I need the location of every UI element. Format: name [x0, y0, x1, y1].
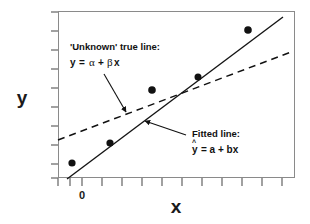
x-axis-ticks	[58, 178, 282, 186]
y-axis-ticks	[51, 12, 58, 178]
data-point	[106, 139, 113, 146]
data-point	[244, 26, 252, 34]
fitted-line-annotation-equation: ^ y = a + bx	[192, 139, 239, 155]
x-tick-label-zero: 0	[79, 189, 85, 201]
data-point	[68, 159, 75, 166]
y-axis-title: y	[17, 87, 28, 108]
true-eq-beta: β	[107, 56, 113, 68]
fitted-line-callout-arrow	[145, 121, 186, 135]
fitted-line-annotation-label: Fitted line:	[192, 128, 240, 139]
true-line-callout-arrow	[104, 74, 126, 112]
true-eq-equals: =	[79, 57, 85, 68]
x-axis-title: x	[171, 196, 182, 217]
true-eq-plus: +	[98, 57, 104, 68]
true-line-annotation-equation: y = α + β x	[70, 56, 120, 68]
fitted-eq-rhs: = a + bx	[201, 144, 239, 155]
true-line-annotation-label: 'Unknown' true line:	[70, 41, 160, 52]
true-eq-x: x	[114, 57, 120, 68]
figure-container: 'Unknown' true line: y = α + β x Fitted …	[0, 0, 310, 224]
fitted-eq-lhs: y	[192, 144, 198, 155]
data-point	[195, 74, 202, 81]
true-eq-lhs: y	[70, 57, 76, 68]
true-eq-alpha: α	[89, 56, 95, 68]
data-point	[148, 86, 156, 94]
scatter-plot-figure: 'Unknown' true line: y = α + β x Fitted …	[0, 0, 310, 224]
